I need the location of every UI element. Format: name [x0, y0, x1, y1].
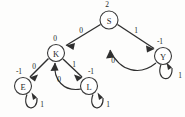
node-value-k: 0 — [53, 34, 57, 43]
edge-l-self — [92, 93, 103, 108]
edge-label-y-self: 1 — [178, 71, 182, 80]
node-value-e: -1 — [16, 67, 22, 76]
node-l-label: L — [86, 82, 91, 92]
edge-label-k-e: 0 — [32, 62, 36, 71]
edge-s-k — [66, 25, 101, 51]
node-y-label: Y — [160, 52, 166, 62]
edge-label-s-y: 1 — [134, 26, 138, 35]
edge-label-e-self: 1 — [40, 100, 44, 109]
node-value-y: -1 — [157, 37, 163, 46]
node-value-s: 2 — [105, 0, 109, 9]
node-l[interactable]: L — [81, 78, 98, 95]
edge-label-l-k: 0 — [57, 75, 61, 84]
node-y[interactable]: Y — [155, 48, 172, 65]
edge-label-s-k: 0 — [79, 26, 83, 35]
node-value-l: -1 — [88, 67, 94, 76]
graph-diagram: 0 1 0 0 1 0 1 1 1 2 0 -1 -1 -1 S K Y E — [0, 0, 185, 117]
arrowhead-e-self — [32, 93, 38, 101]
node-k-label: K — [53, 49, 60, 59]
edge-label-y-s: 0 — [111, 56, 115, 65]
node-s[interactable]: S — [100, 11, 118, 29]
arrowhead-l-k — [51, 63, 59, 72]
arrowhead-l-self — [98, 93, 104, 101]
edge-e-self — [26, 93, 37, 108]
graph-canvas: 0 1 0 0 1 0 1 1 1 2 0 -1 -1 -1 S K Y E — [0, 0, 185, 117]
node-e[interactable]: E — [15, 78, 32, 95]
edge-label-l-self: 1 — [106, 100, 110, 109]
edge-label-k-l: 1 — [72, 60, 76, 69]
node-k[interactable]: K — [48, 45, 65, 62]
node-e-label: E — [20, 82, 25, 92]
node-s-label: S — [107, 16, 112, 26]
